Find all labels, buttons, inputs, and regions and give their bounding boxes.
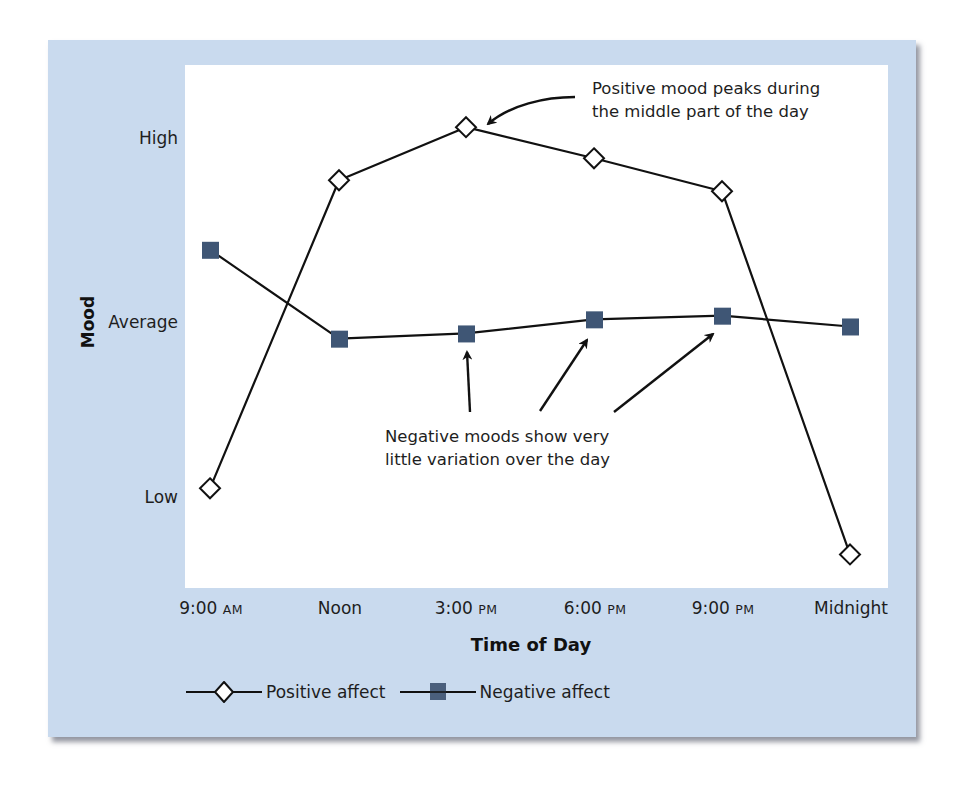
legend: Positive affect Negative affect — [186, 677, 624, 707]
positive-affect-marker — [329, 170, 349, 190]
positive-affect-marker — [712, 181, 732, 201]
annotation-positive-line1: Positive mood peaks during — [592, 77, 820, 100]
annotation-positive-line2: the middle part of the day — [592, 100, 820, 123]
annotation-positive: Positive mood peaks during the middle pa… — [592, 77, 820, 123]
positive-affect-marker — [584, 148, 604, 168]
annotation-negative-line2: little variation over the day — [385, 448, 610, 471]
positive-affect-marker — [840, 544, 860, 564]
negative-affect-marker — [586, 311, 603, 328]
legend-label-positive: Positive affect — [266, 682, 386, 702]
positive-affect-marker — [200, 478, 220, 498]
annotation-negative: Negative moods show very little variatio… — [385, 425, 610, 471]
annotation-arrow-negative-9pm — [614, 334, 713, 412]
positive-affect-series — [200, 117, 860, 564]
chart-canvas — [0, 0, 967, 786]
legend-label-negative: Negative affect — [480, 682, 610, 702]
negative-affect-marker — [331, 331, 348, 348]
legend-item-positive: Positive affect — [186, 681, 386, 703]
negative-affect-marker — [458, 325, 475, 342]
positive-affect-marker — [456, 117, 476, 137]
negative-affect-marker — [202, 242, 219, 259]
legend-item-negative: Negative affect — [400, 681, 610, 703]
annotation-arrow-negative-6pm — [540, 340, 587, 411]
negative-affect-marker — [842, 318, 859, 335]
filled-square-icon — [400, 681, 476, 703]
annotation-arrow-negative-3pm — [467, 352, 470, 412]
open-diamond-icon — [186, 681, 262, 703]
negative-affect-marker — [714, 308, 731, 325]
annotation-negative-line1: Negative moods show very — [385, 425, 610, 448]
negative-affect-series — [202, 242, 859, 348]
annotation-arrow-positive — [488, 97, 575, 124]
